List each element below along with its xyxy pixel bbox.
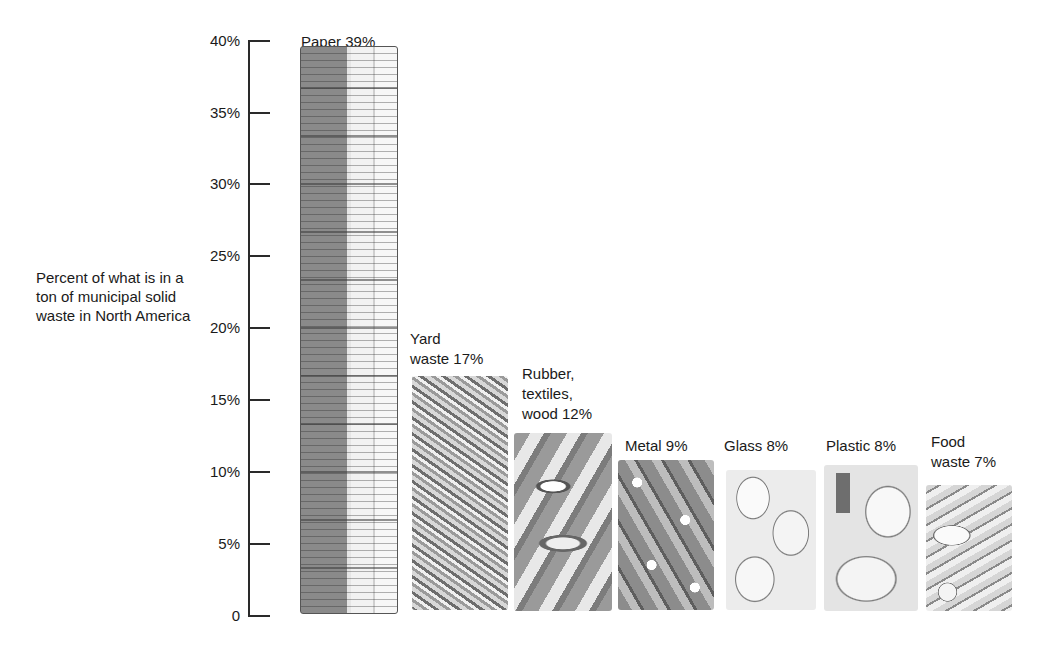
y-axis-line <box>248 41 250 617</box>
y-tick-15 <box>248 399 270 401</box>
metal-cans-icon <box>618 460 714 610</box>
rubber-textiles-wood-icon <box>514 433 612 611</box>
bar-label-food-waste: Food waste 7% <box>931 432 996 472</box>
y-tick-5 <box>248 543 270 545</box>
bar-label-yard-waste: Yard waste 17% <box>410 329 483 369</box>
y-tick-40 <box>248 40 270 42</box>
plastic-items-icon <box>824 465 918 611</box>
y-tick-label: 15% <box>180 392 240 408</box>
y-tick-25 <box>248 255 270 257</box>
y-tick-30 <box>248 183 270 185</box>
y-axis-label: Percent of what is in a ton of municipal… <box>36 268 206 325</box>
bar-label-glass: Glass 8% <box>724 436 788 456</box>
y-tick-10 <box>248 471 270 473</box>
paper-stack-icon <box>300 46 398 614</box>
bar-label-rubber-textiles-wood: Rubber, textiles, wood 12% <box>522 364 592 424</box>
y-tick-label: 40% <box>180 33 240 49</box>
y-tick-label: 35% <box>180 105 240 121</box>
y-tick-label: 5% <box>180 536 240 552</box>
glass-bottles-icon <box>726 470 816 610</box>
y-tick-label: 10% <box>180 464 240 480</box>
y-tick-35 <box>248 112 270 114</box>
y-tick-20 <box>248 327 270 329</box>
y-tick-label: 20% <box>180 320 240 336</box>
y-tick-label: 25% <box>180 248 240 264</box>
bar-label-metal: Metal 9% <box>625 436 688 456</box>
y-tick-label: 30% <box>180 176 240 192</box>
y-tick-0 <box>248 615 270 617</box>
food-waste-icon <box>926 485 1012 611</box>
yard-waste-icon <box>412 376 508 610</box>
y-tick-label: 0 <box>180 608 240 624</box>
bar-label-plastic: Plastic 8% <box>826 436 896 456</box>
